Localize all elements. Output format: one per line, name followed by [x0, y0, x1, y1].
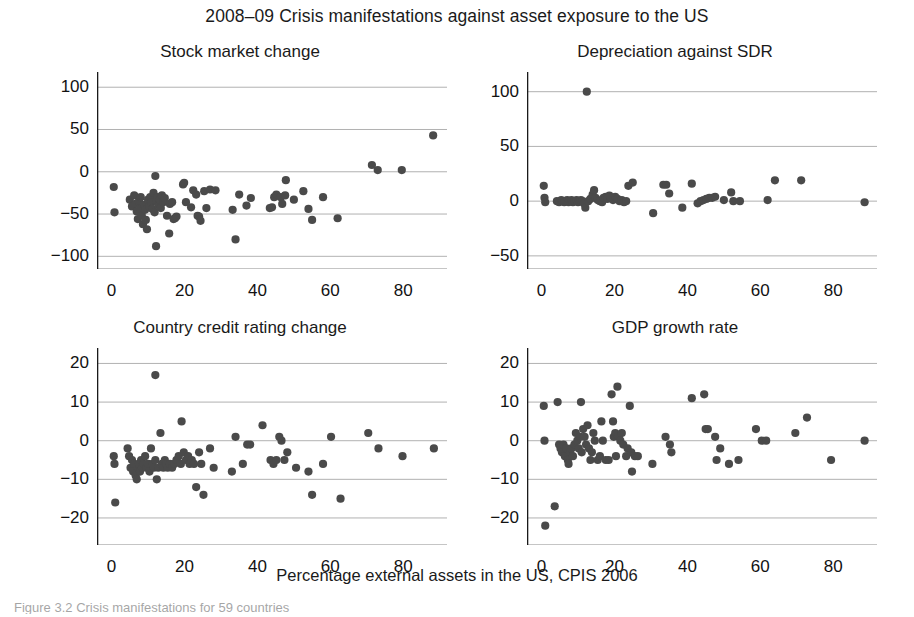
- y-tick-label: 10: [31, 392, 89, 412]
- panel-stock-market-change: Stock market change 100500−50−1000204060…: [20, 42, 460, 292]
- y-tick-label: 0: [31, 431, 89, 451]
- plot-area-country-credit-rating-change: [97, 348, 447, 545]
- x-tick-label: 60: [751, 281, 770, 301]
- y-tick-label: 100: [461, 82, 519, 102]
- panel-title-depreciation-against-sdr: Depreciation against SDR: [455, 42, 895, 62]
- y-tick-label: −20: [461, 508, 519, 528]
- plot-area-stock-market-change: [97, 72, 447, 269]
- x-tick-label: 0: [107, 281, 116, 301]
- panel-depreciation-against-sdr: Depreciation against SDR 100500−50020406…: [455, 42, 895, 292]
- panel-title-country-credit-rating-change: Country credit rating change: [20, 318, 460, 338]
- page-caption-partial: Figure 3.2 Crisis manifestations for 59 …: [14, 600, 354, 614]
- x-tick-label: 60: [321, 281, 340, 301]
- y-tick-label: 20: [461, 353, 519, 373]
- panel-title-gdp-growth-rate: GDP growth rate: [455, 318, 895, 338]
- y-tick-label: −100: [31, 246, 89, 266]
- y-tick-label: 100: [31, 77, 89, 97]
- y-tick-label: 0: [31, 162, 89, 182]
- figure-root: 2008–09 Crisis manifestations against as…: [0, 0, 914, 617]
- y-tick-label: −10: [31, 469, 89, 489]
- y-tick-label: 10: [461, 392, 519, 412]
- x-tick-label: 20: [175, 281, 194, 301]
- x-tick-label: 40: [678, 281, 697, 301]
- figure-title: 2008–09 Crisis manifestations against as…: [0, 6, 914, 27]
- x-tick-label: 40: [248, 281, 267, 301]
- x-tick-label: 80: [824, 281, 843, 301]
- y-tick-label: 0: [461, 191, 519, 211]
- y-tick-label: −10: [461, 469, 519, 489]
- panel-title-stock-market-change: Stock market change: [20, 42, 460, 62]
- y-tick-label: −20: [31, 508, 89, 528]
- plot-area-gdp-growth-rate: [527, 348, 877, 545]
- x-tick-label: 0: [537, 281, 546, 301]
- y-tick-label: 20: [31, 353, 89, 373]
- y-tick-label: 50: [461, 136, 519, 156]
- x-axis-label: Percentage external assets in the US, CP…: [0, 566, 914, 585]
- y-tick-label: 0: [461, 431, 519, 451]
- panel-country-credit-rating-change: Country credit rating change 20100−10−20…: [20, 318, 460, 568]
- panel-gdp-growth-rate: GDP growth rate 20100−10−20020406080: [455, 318, 895, 568]
- y-tick-label: 50: [31, 119, 89, 139]
- y-tick-label: −50: [461, 246, 519, 266]
- y-tick-label: −50: [31, 204, 89, 224]
- x-tick-label: 20: [605, 281, 624, 301]
- x-tick-label: 80: [394, 281, 413, 301]
- plot-area-depreciation-against-sdr: [527, 72, 877, 269]
